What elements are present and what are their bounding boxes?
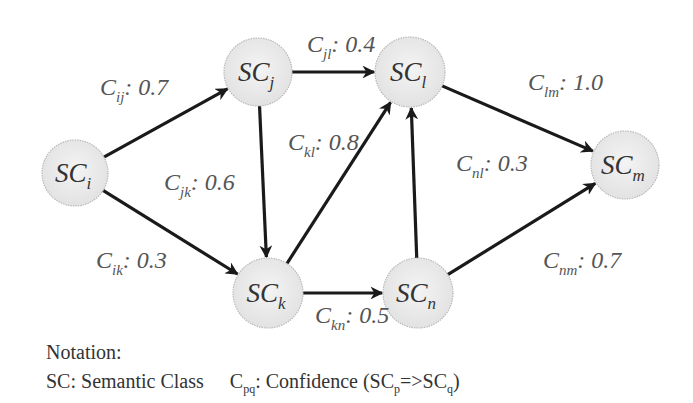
node-sc-n: SCn (383, 258, 453, 328)
edge-label-kl: Ckl: 0.8 (288, 129, 359, 160)
confidence-definition: Cpq: Confidence (SCp=>SCq) (230, 370, 460, 392)
node-sc-m: SCm (591, 131, 659, 199)
edge-label-jl: Cjl: 0.4 (307, 31, 375, 62)
edge-label-ij: Cij: 0.7 (100, 74, 169, 105)
node-sc-k: SCk (233, 258, 303, 328)
edge-label-nm: Cnm: 0.7 (543, 247, 622, 278)
edge-labels-layer: Cij: 0.7Cik: 0.3Cjl: 0.4Cjk: 0.6Ckl: 0.8… (96, 31, 622, 333)
notation-definitions: SC: Semantic ClassCpq: Confidence (SCp=>… (46, 370, 460, 397)
sc-definition: SC: Semantic Class (46, 370, 204, 392)
edge-n-m (448, 183, 595, 274)
edge-label-jk: Cjk: 0.6 (164, 169, 235, 200)
edge-label-ik: Cik: 0.3 (96, 247, 167, 278)
edge-k-l (287, 102, 391, 263)
edge-label-lm: Clm: 1.0 (528, 69, 603, 100)
node-label: SCj (238, 57, 275, 92)
node-label: SCl (390, 57, 427, 92)
edge-label-kn: Ckn: 0.5 (315, 302, 389, 333)
confidence-graph: SCiSCjSClSCmSCkSCn Cij: 0.7Cik: 0.3Cjl: … (0, 0, 693, 340)
edge-j-k (260, 106, 267, 257)
node-sc-i: SCi (42, 140, 108, 206)
node-sc-l: SCl (375, 37, 445, 107)
node-sc-j: SCj (224, 38, 292, 106)
node-label: SCi (55, 158, 92, 193)
edge-label-nl: Cnl: 0.3 (456, 150, 528, 181)
notation-title: Notation: (46, 341, 122, 364)
edge-l-m (442, 86, 593, 151)
edge-n-l (411, 108, 416, 258)
